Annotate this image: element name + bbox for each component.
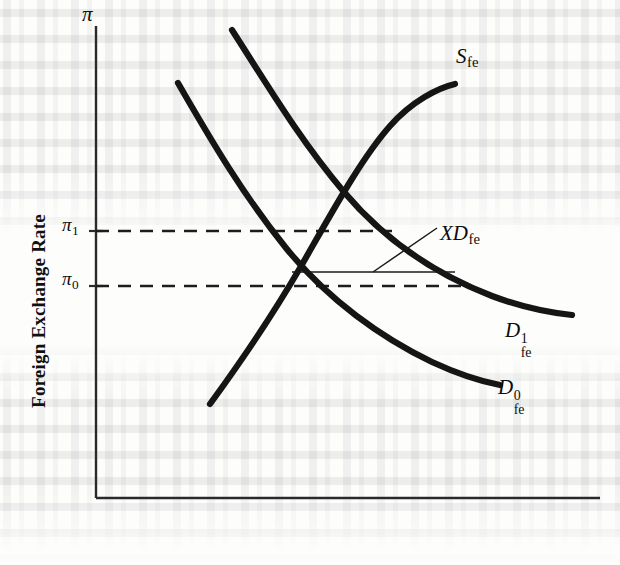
demand-new-label-superscript: 1 (521, 332, 532, 346)
tick-pi1-subscript: 1 (72, 223, 79, 238)
excess-demand-label: XDfe (440, 221, 480, 248)
y-tick-label-pi0: π0 (62, 268, 79, 293)
demand-curve-label-old: D 0 fe (498, 375, 524, 417)
demand-curve-label-new: D 1 fe (505, 318, 531, 360)
demand-old-label-indices: 0 fe (513, 389, 524, 417)
y-axis-title: Foreign Exchange Rate (28, 196, 50, 426)
tick-pi0-base: π (62, 268, 72, 289)
supply-curve-label: Sfe (456, 44, 478, 71)
demand-new-label-subscript: fe (521, 346, 532, 360)
demand-old-label-base: D (498, 375, 513, 399)
demand-old-label-subscript: fe (514, 403, 525, 417)
figure-page: Foreign Exchange Rate π π1 π0 Sfe XDfe D… (0, 0, 620, 565)
y-axis-symbol: π (82, 2, 93, 27)
tick-pi1-base: π (62, 214, 72, 235)
tick-pi0-subscript: 0 (72, 277, 79, 292)
supply-demand-plot (0, 0, 620, 565)
supply-label-subscript: fe (467, 54, 479, 70)
demand-new-label-indices: 1 fe (520, 332, 531, 360)
axes (96, 26, 600, 498)
supply-label-base: S (456, 44, 467, 68)
excess-demand-label-subscript: fe (468, 231, 480, 247)
demand-new-label-base: D (505, 318, 520, 342)
excess-demand-label-base: XD (440, 221, 468, 245)
demand-old-label-superscript: 0 (514, 389, 525, 403)
y-tick-label-pi1: π1 (62, 214, 79, 239)
